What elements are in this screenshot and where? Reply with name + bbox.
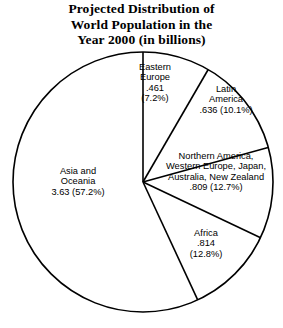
slice-label-asia-oceania-value: 3.63 (57.2%) [25,187,131,197]
slice-label-asia-oceania-line-2: Oceania [25,176,131,186]
slice-label-eastern-europe-line-2: Europe [133,72,177,82]
slice-label-latin-america-value: .636 (10.1%) [178,105,274,115]
slice-label-eastern-europe-percent: (7.2%) [133,93,177,103]
slice-label-asia-oceania-line-1: Asia and [25,166,131,176]
slice-label-northern-america-line-3: Australia, New Zealand [152,172,280,182]
slice-label-africa-value: .814 [175,238,237,248]
slice-label-eastern-europe: Eastern Europe .461 (7.2%) [133,62,177,104]
slice-label-asia-oceania: Asia and Oceania 3.63 (57.2%) [25,166,131,197]
slice-label-northern-america-group: Northern America, Western Europe, Japan,… [152,151,280,193]
slice-label-africa-percent: (12.8%) [175,249,237,259]
slice-label-eastern-europe-value: .461 [133,83,177,93]
slice-label-latin-america: Latin America .636 (10.1%) [178,84,274,115]
slice-label-eastern-europe-line-1: Eastern [133,62,177,72]
slice-label-latin-america-line-1: Latin [178,84,274,94]
slice-label-northern-america-line-1: Northern America, [152,151,280,161]
slice-label-northern-america-line-2: Western Europe, Japan, [152,161,280,171]
slice-label-latin-america-line-2: America [178,94,274,104]
slice-label-northern-america-value: .809 (12.7%) [152,182,280,192]
pie-chart-figure: Projected Distribution of World Populati… [0,0,283,328]
slice-label-africa: Africa .814 (12.8%) [175,228,237,259]
slice-label-africa-line-1: Africa [175,228,237,238]
